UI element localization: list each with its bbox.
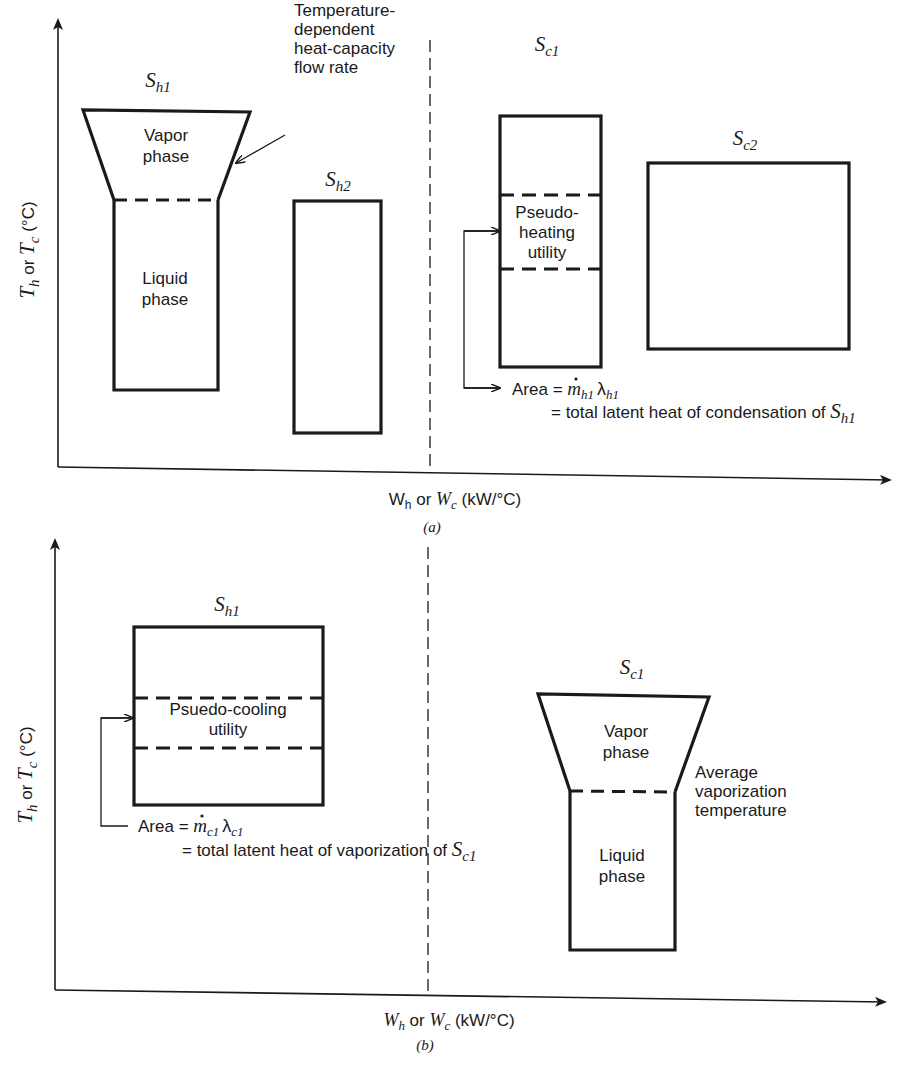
text-part: S xyxy=(535,32,546,56)
text-part: = total latent heat of vaporization of xyxy=(182,841,452,860)
text-part: (°C) xyxy=(17,726,36,761)
panel-caption: (a) xyxy=(423,519,441,536)
annotation-text: Temperature- xyxy=(294,1,395,20)
area-bracket-line xyxy=(101,718,131,826)
text-part: m xyxy=(193,815,207,836)
phase-change-boundary xyxy=(570,791,675,792)
text-part: c1 xyxy=(231,824,243,839)
text-part: S xyxy=(325,167,336,191)
text-part: c1 xyxy=(207,824,219,839)
text-part: S xyxy=(214,592,225,616)
text-part: or xyxy=(19,255,38,280)
text-part: S xyxy=(830,399,841,423)
stream-label: Sc2 xyxy=(733,126,758,153)
annotation: Area = mc1λc1= total latent heat of vapo… xyxy=(101,718,477,864)
text-part: h1 xyxy=(581,387,594,402)
area-bracket-line xyxy=(464,231,500,388)
phase-label: phase xyxy=(599,867,645,886)
y-axis-label: Th or Tc (°C) xyxy=(13,726,40,823)
area-formula: Area = mh1λh1 xyxy=(512,378,619,402)
text-part: S xyxy=(145,68,156,92)
panel-b: Th or Tc (°C)Wh or Wc (kW/°C)(b)Sh1Psued… xyxy=(13,540,885,1054)
phase-label: Liquid xyxy=(599,846,644,865)
utility-band-label: utility xyxy=(209,720,248,739)
area-formula: Area = mc1λc1 xyxy=(138,815,244,839)
x-axis-label: Wh or Wc (kW/°C) xyxy=(389,489,521,512)
text-part: S xyxy=(733,126,744,150)
text-part: W xyxy=(389,490,405,509)
phase-label: Liquid xyxy=(142,269,187,288)
pinch-diagram-figure: Th or Tc (°C)Wh or Wc (kW/°C)(a)Sh1Vapor… xyxy=(0,0,911,1069)
text-part: or xyxy=(405,1011,430,1030)
annotation-text: flow rate xyxy=(294,58,358,77)
text-part: h1 xyxy=(225,603,240,619)
phase-label: phase xyxy=(143,147,189,166)
text-part: = total latent heat of condensation of xyxy=(551,403,830,422)
panel-caption: (b) xyxy=(416,1037,434,1054)
text-part: h2 xyxy=(336,178,352,194)
text-part: λ xyxy=(222,816,231,836)
text-part: h xyxy=(24,804,40,812)
stream-label: Sc1 xyxy=(535,32,560,59)
stream-sc1: Sc1VaporphaseLiquidphase xyxy=(538,655,709,950)
x-axis xyxy=(55,990,885,1002)
annotation: Temperature-dependentheat-capacityflow r… xyxy=(236,1,396,163)
stream-box xyxy=(648,163,849,349)
annotation-text: dependent xyxy=(294,20,375,39)
x-axis-label: Wh or Wc (kW/°C) xyxy=(383,1010,514,1033)
text-part: h xyxy=(26,279,42,287)
text-part: λ xyxy=(597,379,606,399)
annotation-text: heat-capacity xyxy=(294,39,396,58)
annotation: Averagevaporizationtemperature xyxy=(695,763,787,820)
text-part: or xyxy=(412,490,437,509)
mass-flow-dot xyxy=(574,377,577,380)
stream-label: Sc1 xyxy=(620,655,645,682)
utility-band-label: utility xyxy=(528,243,567,262)
stream-label: Sh1 xyxy=(214,592,240,619)
stream-sc1: Sc1Pseudo-heatingutility xyxy=(500,32,601,367)
text-part: or xyxy=(17,780,36,805)
annotation: Area = mh1λh1= total latent heat of cond… xyxy=(464,231,856,426)
utility-band-label: Pseudo- xyxy=(515,203,578,222)
mass-flow-dot xyxy=(200,814,203,817)
pointer-arrow xyxy=(236,135,285,163)
text-part: c1 xyxy=(630,666,644,682)
text-part: h xyxy=(405,498,412,512)
text-part: h1 xyxy=(606,387,619,402)
text-part: Area = xyxy=(512,380,567,399)
utility-band-label: heating xyxy=(519,223,575,242)
stream-box xyxy=(294,201,381,433)
text-part: (kW/°C) xyxy=(450,1011,514,1030)
text-part: (kW/°C) xyxy=(457,490,521,509)
text-part: c2 xyxy=(743,137,758,153)
phase-label: Vapor xyxy=(144,126,188,145)
phase-label: phase xyxy=(142,290,188,309)
text-part: m xyxy=(567,378,581,399)
text-part: S xyxy=(452,837,463,861)
text-part: S xyxy=(620,655,631,679)
text-part: c1 xyxy=(462,848,476,864)
phase-label: phase xyxy=(603,743,649,762)
stream-sh1: Sh1VaporphaseLiquidphase xyxy=(83,68,250,390)
text-part: Area = xyxy=(138,817,193,836)
stream-sc2: Sc2 xyxy=(648,126,849,349)
x-axis xyxy=(58,467,890,480)
annotation-text: temperature xyxy=(695,801,787,820)
utility-band-label: Psuedo-cooling xyxy=(169,700,286,719)
annotation-text: vaporization xyxy=(695,782,787,801)
stream-label: Sh1 xyxy=(145,68,171,95)
stream-sh1: Sh1Psuedo-coolingutility xyxy=(134,592,323,805)
stream-label: Sh2 xyxy=(325,167,351,194)
phase-label: Vapor xyxy=(604,722,648,741)
stream-sh2: Sh2 xyxy=(294,167,381,433)
text-part: (°C) xyxy=(19,201,38,236)
area-definition: = total latent heat of vaporization of S… xyxy=(182,837,477,864)
y-axis-label: Th or Tc (°C) xyxy=(15,201,42,298)
text-part: h1 xyxy=(156,79,171,95)
text-part: h1 xyxy=(841,410,856,426)
area-definition: = total latent heat of condensation of S… xyxy=(551,399,856,426)
text-part: c1 xyxy=(545,43,559,59)
annotation-text: Average xyxy=(695,763,758,782)
panel-a: Th or Tc (°C)Wh or Wc (kW/°C)(a)Sh1Vapor… xyxy=(15,1,890,536)
